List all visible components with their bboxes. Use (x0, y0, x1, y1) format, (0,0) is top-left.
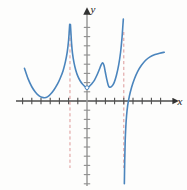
graph-figure: y x (0, 0, 187, 190)
tick-layer (23, 27, 161, 183)
y-axis-label: y (90, 3, 96, 15)
plot-svg: y x (0, 0, 187, 190)
curve-branch-right (124, 52, 164, 184)
curve-branch-left (24, 24, 69, 98)
axis-layer (16, 14, 173, 186)
curve-branch-middle (70, 19, 123, 88)
x-axis-label: x (177, 95, 183, 107)
feature-layer (85, 86, 89, 90)
open-point-marker (85, 86, 89, 90)
